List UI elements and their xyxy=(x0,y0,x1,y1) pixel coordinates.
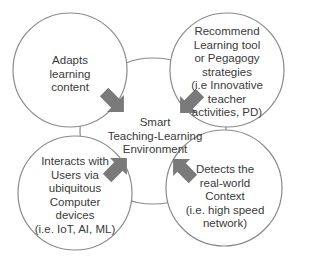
center-label: Smart Teaching-Learning Environment xyxy=(100,116,210,157)
node-label-top-left: Adapts learning content xyxy=(30,54,110,95)
node-label-top-right: Recommend Learning tool or Pegagogy stra… xyxy=(177,25,277,120)
node-label-bottom-right: Detects the real-world Context (i.e. hig… xyxy=(170,163,280,231)
node-label-bottom-left: Interacts with Users via ubiquitous Comp… xyxy=(20,155,130,236)
